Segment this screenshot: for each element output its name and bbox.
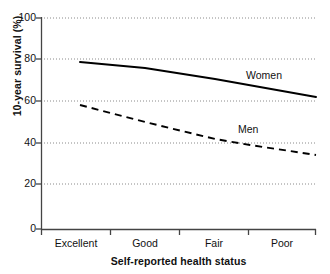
y-tick-label-80: 80	[6, 53, 36, 64]
x-tick-label-good: Good	[110, 237, 180, 249]
y-axis-ticks	[36, 18, 41, 229]
plot-area	[0, 0, 330, 274]
y-tick-labels: 100 80 60 40 20 0	[0, 0, 36, 274]
series-label-women: Women	[246, 69, 282, 81]
series-label-men: Men	[238, 123, 258, 135]
x-tick-label-fair: Fair	[179, 237, 249, 249]
gridlines	[41, 18, 316, 184]
x-axis-title: Self-reported health status	[41, 255, 316, 267]
y-tick-label-0: 0	[6, 223, 36, 234]
x-tick-label-excellent: Excellent	[41, 237, 111, 249]
y-tick-label-100: 100	[6, 12, 36, 23]
y-tick-label-40: 40	[6, 137, 36, 148]
y-tick-label-20: 20	[6, 178, 36, 189]
series-line-men	[80, 105, 316, 155]
line-chart: 100 80 60 40 20 0 Excellent Good Fair Po…	[0, 0, 330, 274]
x-tick-label-poor: Poor	[248, 237, 316, 249]
y-tick-label-60: 60	[6, 95, 36, 106]
